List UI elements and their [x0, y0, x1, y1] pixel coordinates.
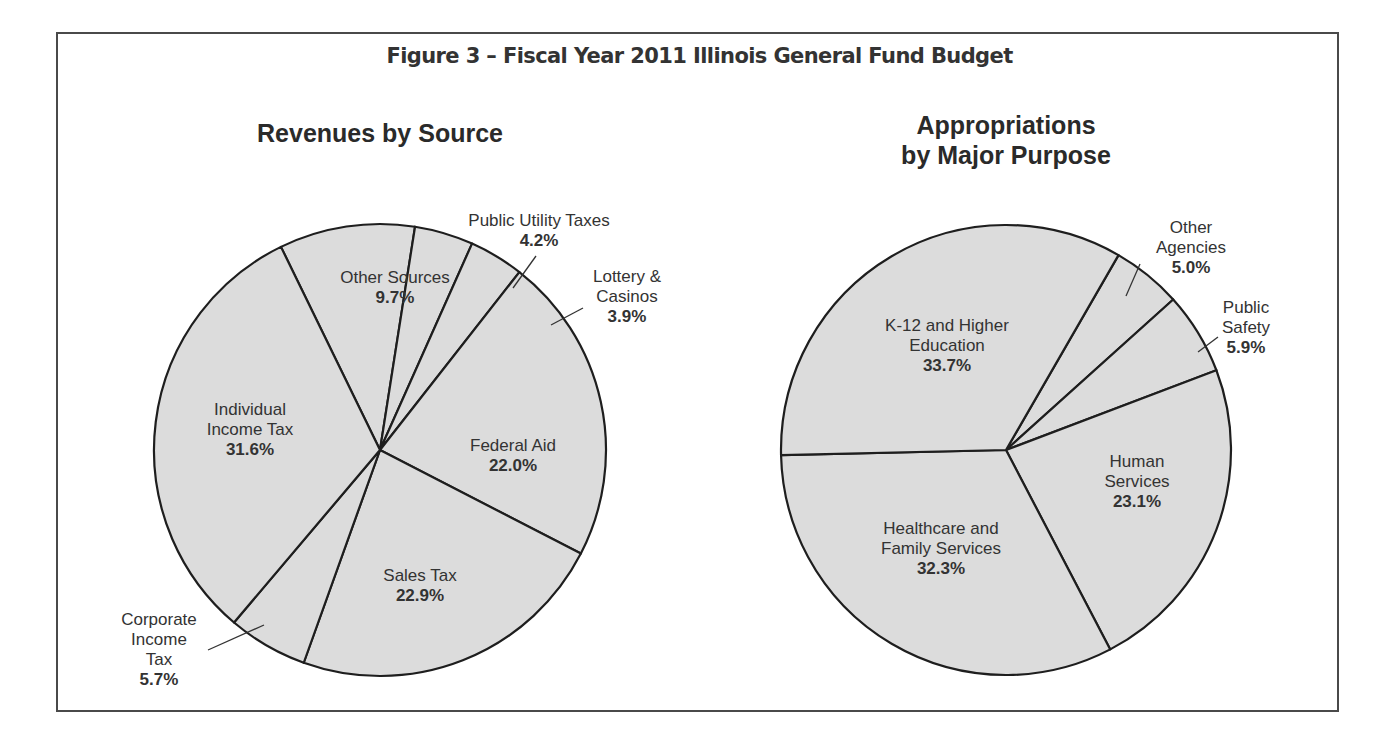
- label-other-sources: Other Sources 9.7%: [340, 268, 450, 308]
- label-public-utility-taxes: Public Utility Taxes 4.2%: [468, 211, 609, 251]
- label-corporate-income-tax: Corporate Income Tax 5.7%: [121, 610, 197, 690]
- label-public-safety: Public Safety 5.9%: [1222, 298, 1270, 358]
- label-healthcare-family-services: Healthcare and Family Services 32.3%: [881, 519, 1001, 579]
- label-human-services: Human Services 23.1%: [1104, 452, 1169, 512]
- label-federal-aid: Federal Aid 22.0%: [470, 436, 556, 476]
- label-sales-tax: Sales Tax 22.9%: [383, 566, 456, 606]
- appropriations-pie: [781, 225, 1231, 675]
- label-lottery-casinos: Lottery & Casinos 3.9%: [593, 267, 661, 327]
- label-k12-higher-education: K-12 and Higher Education 33.7%: [885, 316, 1009, 376]
- pie-charts-svg: [0, 0, 1399, 756]
- label-individual-income-tax: Individual Income Tax 31.6%: [207, 400, 294, 460]
- label-other-agencies: Other Agencies 5.0%: [1156, 218, 1226, 278]
